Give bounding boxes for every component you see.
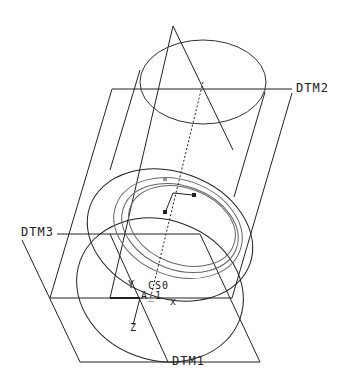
label-dtm2: DTM2 [296, 82, 329, 94]
label-y-axis: Y [128, 279, 135, 291]
cad-wireframe [0, 0, 344, 385]
point-marker-3 [163, 178, 167, 181]
datum-plane-dtm2 [50, 89, 292, 298]
cylinder-right-silhouette [234, 92, 265, 197]
datum-plane-dtm1 [80, 26, 260, 362]
inner-ring-3 [117, 171, 246, 280]
label-axis-a1: A_1 [141, 290, 162, 302]
label-z-axis: Z [130, 322, 137, 334]
label-dtm1: DTM1 [172, 355, 205, 367]
label-dtm3: DTM3 [21, 226, 54, 238]
label-x-axis: x [170, 296, 177, 308]
axis-a1 [150, 82, 203, 300]
csys-z-axis [133, 298, 140, 325]
feature-leader [165, 193, 193, 213]
cylinder-left-silhouette [110, 70, 140, 170]
point-marker-1 [163, 210, 167, 214]
point-marker-2 [192, 193, 196, 197]
